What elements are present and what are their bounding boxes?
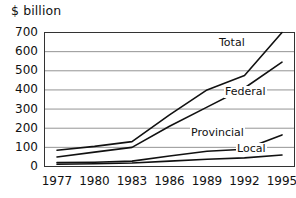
x-axis-tick-label: 1980 [75,175,115,187]
x-axis-tick-label: 1995 [262,175,296,187]
x-axis-tick-label: 1977 [37,175,77,187]
y-axis-tick-label: 400 [0,83,38,95]
x-axis-tick-label: 1989 [187,175,227,187]
y-axis-tick-label: 200 [0,122,38,134]
series-label-local: Local [236,143,267,155]
x-axis-tick-label: 1986 [150,175,190,187]
y-axis-tick-label: 500 [0,64,38,76]
line-chart: $ billion 0100200300400500600700 1977198… [0,0,296,198]
y-axis-tick-label: 700 [0,26,38,38]
series-label-total: Total [218,37,246,49]
series-label-federal: Federal [224,86,267,98]
plot-area [0,0,296,198]
series-label-provincial: Provincial [190,127,245,139]
y-axis-tick-label: 100 [0,141,38,153]
y-axis-tick-label: 300 [0,103,38,115]
y-axis-tick-label: 0 [0,160,38,172]
x-axis-tick-label: 1983 [112,175,152,187]
y-axis-tick-label: 600 [0,45,38,57]
x-axis-tick-label: 1992 [225,175,265,187]
